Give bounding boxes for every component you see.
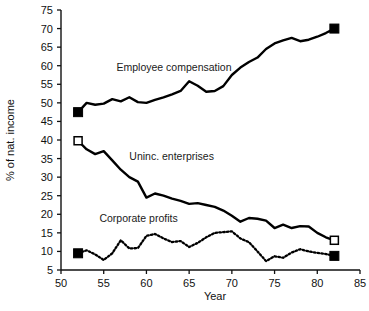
x-tick-label: 70: [226, 277, 238, 289]
y-tick-label: 45: [41, 115, 53, 127]
series-endpoint-marker: [74, 249, 83, 258]
y-tick-label: 20: [41, 208, 53, 220]
y-tick-label: 35: [41, 153, 53, 165]
series-annotations-group: Employee compensationUninc. enterprisesC…: [99, 61, 231, 224]
y-tick-label: 65: [41, 41, 53, 53]
y-tick-label: 75: [41, 4, 53, 16]
y-axis-title: % of nat. income: [4, 99, 16, 181]
x-tick-label: 75: [268, 277, 280, 289]
y-tick-label: 25: [41, 190, 53, 202]
series-label: Corporate profits: [99, 212, 177, 224]
chart-container: 51015202530354045505560657075 5055606570…: [0, 0, 369, 311]
y-tick-label: 70: [41, 23, 53, 35]
y-tick-label: 55: [41, 78, 53, 90]
series-label: Employee compensation: [117, 61, 232, 73]
x-tick-label: 85: [354, 277, 366, 289]
x-tick-label: 55: [98, 277, 110, 289]
series-label: Uninc. enterprises: [129, 150, 214, 162]
y-tick-label: 5: [47, 264, 53, 276]
x-tick-label: 80: [311, 277, 323, 289]
y-tick-label: 60: [41, 60, 53, 72]
x-tick-label: 65: [183, 277, 195, 289]
series-line: [78, 231, 334, 261]
x-axis-title: Year: [204, 290, 227, 302]
line-chart: 51015202530354045505560657075 5055606570…: [0, 0, 369, 311]
y-tick-label: 10: [41, 245, 53, 257]
series-endpoint-marker: [330, 24, 339, 33]
x-tick-label: 50: [55, 277, 67, 289]
series-markers-group: [74, 24, 339, 260]
y-axis-ticks: 51015202530354045505560657075: [41, 4, 61, 276]
series-endpoint-marker: [330, 236, 338, 244]
series-endpoint-marker: [74, 137, 82, 145]
y-tick-label: 40: [41, 134, 53, 146]
series-endpoint-marker: [74, 108, 83, 117]
y-tick-label: 30: [41, 171, 53, 183]
y-tick-label: 50: [41, 97, 53, 109]
x-axis-ticks: 5055606570758085: [55, 270, 366, 289]
x-tick-label: 60: [140, 277, 152, 289]
series-endpoint-marker: [330, 251, 339, 260]
y-tick-label: 15: [41, 227, 53, 239]
